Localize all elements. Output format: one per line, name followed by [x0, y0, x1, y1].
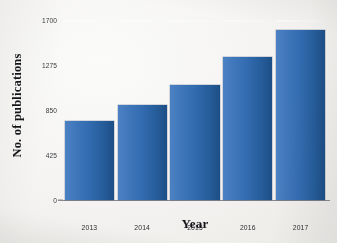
- bar-highlight: [65, 20, 114, 22]
- bar-highlight: [223, 20, 272, 22]
- y-tick-label-1700: 1700: [42, 17, 63, 24]
- y-tick-label-425: 425: [46, 152, 63, 159]
- bar-highlight: [170, 20, 219, 22]
- bar-slot-2015: [170, 20, 219, 200]
- bar-2014[interactable]: [118, 105, 167, 200]
- bar-highlight: [276, 20, 325, 22]
- bar-slot-2013: [65, 20, 114, 200]
- y-tick-label-850: 850: [46, 107, 63, 114]
- bar-2013[interactable]: [65, 121, 114, 200]
- bar-slot-2016: [223, 20, 272, 200]
- bar-2017[interactable]: [276, 30, 325, 200]
- bar-2016[interactable]: [223, 57, 272, 200]
- bar-chart-figure: No. of publications 1700 1275 850 425 0: [0, 0, 337, 243]
- bar-slot-2014: [118, 20, 167, 200]
- y-axis-title-label: No. of publications: [10, 53, 25, 157]
- plot-area: 1700 1275 850 425 0: [63, 20, 327, 200]
- bar-highlight: [118, 20, 167, 22]
- y-axis-title: No. of publications: [2, 0, 32, 210]
- y-tick-label-1275: 1275: [42, 62, 63, 69]
- bar-slot-2017: [276, 20, 325, 200]
- x-axis-title: Year: [63, 216, 327, 232]
- bar-series: [63, 20, 327, 200]
- bar-2015[interactable]: [170, 85, 219, 200]
